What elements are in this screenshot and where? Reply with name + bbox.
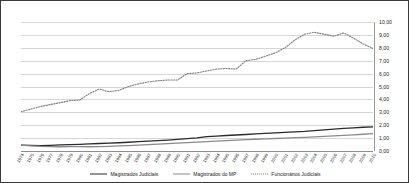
legend-swatch-dotted-icon	[251, 172, 268, 176]
x-axis-tick-label: 1977	[46, 153, 55, 164]
x-axis-tick-label: 2003	[300, 153, 309, 164]
x-axis-tick-label: 1995	[222, 153, 231, 164]
x-axis-tick-label: 1990	[173, 153, 182, 164]
legend-item-funcionarios-judiciais: Funcionários Judiciais	[251, 171, 320, 177]
x-axis-tick-label: 1998	[251, 153, 260, 164]
y-axis-tick-label: 9,00	[379, 32, 389, 37]
x-axis-tick-label: 1999	[261, 153, 270, 164]
x-axis-tick-label: 2002	[290, 153, 299, 164]
legend-swatch-solid-mid-icon	[173, 172, 190, 176]
y-axis-tick-label: 5,00	[379, 84, 389, 89]
x-axis-tick-label: 2008	[349, 153, 358, 164]
x-axis-tick-label: 2005	[320, 153, 329, 164]
x-axis-tick-label: 1997	[241, 153, 250, 164]
plot-area	[21, 22, 373, 151]
x-axis-tick-label: 1980	[75, 153, 84, 164]
x-axis-tick-label: 1982	[95, 153, 104, 164]
y-axis-tick-label: 0,00	[379, 149, 389, 154]
y-axis-tick-label: 10,00	[379, 20, 392, 25]
x-axis-tick-label: 1996	[232, 153, 241, 164]
x-axis-tick-label: 1985	[124, 153, 133, 164]
x-axis-tick-label: 1989	[163, 153, 172, 164]
x-axis-tick-label: 1979	[65, 153, 74, 164]
y-axis-tick-label: 7,00	[379, 58, 389, 63]
x-axis-tick-label: 1991	[183, 153, 192, 164]
y-axis-tick-label: 1,00	[379, 136, 389, 141]
legend-item-magistrados-judiciais: Magistrados Judiciais	[90, 171, 158, 177]
x-axis-tick-label: 2000	[271, 153, 280, 164]
x-axis-tick-label: 1984	[114, 153, 123, 164]
x-axis-tick-label: 2007	[339, 153, 348, 164]
x-axis-tick-label: 2004	[310, 153, 319, 164]
y-axis-tick-label: 6,00	[379, 71, 389, 76]
x-axis-tick-label: 1975	[26, 153, 35, 164]
x-axis-tick-label: 2001	[281, 153, 290, 164]
legend-label: Magistrados do MP	[193, 171, 236, 177]
y-axis-tick-label: 2,00	[379, 123, 389, 128]
x-axis-tick-label: 1992	[193, 153, 202, 164]
y-axis-tick-label: 4,00	[379, 97, 389, 102]
x-axis-tick-label: 1987	[144, 153, 153, 164]
legend-swatch-solid-dark-icon	[90, 172, 107, 176]
y-axis-spine	[374, 22, 375, 151]
x-axis-tick-label: 1986	[134, 153, 143, 164]
legend-label: Magistrados Judiciais	[110, 171, 158, 177]
x-axis-tick-label: 2009	[359, 153, 368, 164]
x-axis-tick-label: 2006	[329, 153, 338, 164]
x-axis-tick-label: 2010	[369, 153, 378, 164]
series-lines	[21, 22, 373, 151]
x-axis-labels: 1974197519761977197819791980198119821983…	[21, 152, 373, 170]
x-axis-tick-label: 1978	[56, 153, 65, 164]
legend-item-magistrados-do-mp: Magistrados do MP	[173, 171, 236, 177]
x-axis-tick-label: 1976	[36, 153, 45, 164]
x-axis-tick-label: 1993	[202, 153, 211, 164]
x-axis-tick-label: 1983	[105, 153, 114, 164]
series-line	[21, 32, 373, 111]
legend-label: Funcionários Judiciais	[271, 171, 320, 177]
x-axis-tick-label: 1974	[17, 153, 26, 164]
x-axis-tick-label: 1988	[153, 153, 162, 164]
chart-figure: 0,001,002,003,004,005,006,007,008,009,00…	[0, 0, 409, 183]
y-axis: 0,001,002,003,004,005,006,007,008,009,00…	[374, 22, 408, 151]
chart-legend: Magistrados Judiciais Magistrados do MP …	[1, 171, 409, 177]
y-axis-tick-label: 3,00	[379, 110, 389, 115]
x-axis-tick-label: 1981	[85, 153, 94, 164]
y-axis-tick-label: 8,00	[379, 45, 389, 50]
x-axis-tick-label: 1994	[212, 153, 221, 164]
